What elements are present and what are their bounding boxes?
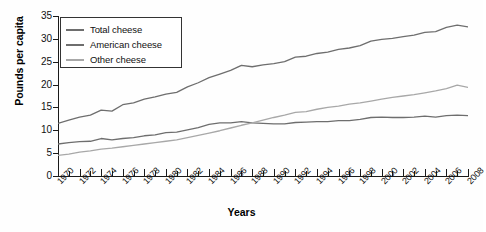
legend-swatch-icon [66, 44, 84, 46]
y-tick-label: 10 [28, 125, 52, 135]
legend-swatch-icon [66, 29, 84, 31]
legend-swatch-icon [66, 59, 84, 61]
y-tick-mark [53, 62, 58, 63]
legend-label: Other cheese [90, 54, 146, 65]
x-axis-title: Years [0, 206, 483, 218]
y-axis-ticks: 05101520253035 [24, 0, 52, 232]
y-tick-mark [53, 39, 58, 40]
y-tick-label: 5 [28, 148, 52, 158]
legend-item[interactable]: Total cheese [66, 22, 176, 37]
y-tick-mark [53, 176, 58, 177]
y-tick-label: 20 [28, 80, 52, 90]
series-line [58, 85, 468, 155]
y-tick-label: 35 [28, 11, 52, 21]
y-tick-mark [53, 16, 58, 17]
y-tick-mark [53, 85, 58, 86]
y-tick-label: 15 [28, 102, 52, 112]
y-tick-label: 30 [28, 34, 52, 44]
legend-item[interactable]: Other cheese [66, 52, 176, 67]
chart-legend: Total cheeseAmerican cheeseOther cheese [60, 17, 182, 68]
y-tick-mark [53, 153, 58, 154]
y-tick-label: 0 [28, 171, 52, 181]
legend-item[interactable]: American cheese [66, 37, 176, 52]
y-tick-mark [53, 130, 58, 131]
legend-label: American cheese [90, 39, 162, 50]
legend-label: Total cheese [90, 24, 142, 35]
y-tick-label: 25 [28, 57, 52, 67]
y-tick-mark [53, 107, 58, 108]
series-line [58, 115, 468, 144]
